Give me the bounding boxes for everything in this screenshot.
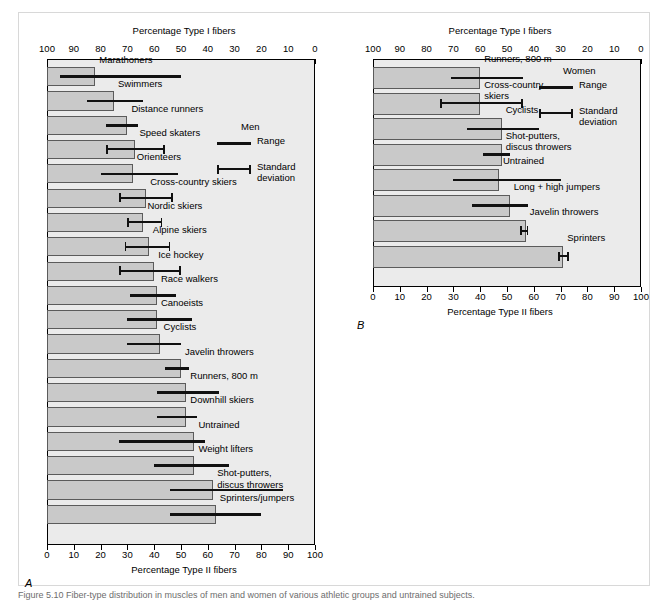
bar-label: Sprinters bbox=[567, 232, 605, 243]
bottom-axis-tick bbox=[453, 287, 454, 292]
bar-row[interactable]: Speed skaters bbox=[19, 140, 349, 159]
bar-label: Weight lifters bbox=[198, 443, 253, 454]
top-axis-tick-label: 10 bbox=[601, 43, 627, 54]
bar-row[interactable]: Runners, 800 m bbox=[19, 383, 349, 402]
bar-label: Sprinters/jumpers bbox=[220, 492, 294, 503]
bar-row[interactable]: Untrained bbox=[351, 169, 649, 191]
top-axis-tick-label: 0 bbox=[302, 43, 328, 54]
bar-label: Orienteers bbox=[137, 151, 181, 162]
bottom-axis-tick bbox=[534, 287, 535, 292]
bottom-axis-tick bbox=[373, 287, 374, 292]
panel-id-label: A bbox=[25, 577, 32, 589]
bar-label: Distance runners bbox=[131, 103, 203, 114]
bar-label-line2: discus throwers bbox=[217, 479, 283, 490]
bar-label: Cross-country bbox=[484, 79, 543, 90]
sd-marker bbox=[119, 197, 173, 199]
panel-b: Percentage Type I fibers1009080706050403… bbox=[351, 13, 649, 585]
bar-label: Cyclists bbox=[506, 104, 539, 115]
top-axis-tick-label: 0 bbox=[628, 43, 654, 54]
bar-label: Untrained bbox=[198, 419, 239, 430]
legend-sd-swatch bbox=[217, 168, 251, 170]
bar-row[interactable]: Untrained bbox=[19, 432, 349, 451]
top-axis-tick-label: 20 bbox=[574, 43, 600, 54]
bar-label: Marathoners bbox=[99, 54, 152, 65]
legend-sd-label-line2: deviation bbox=[579, 117, 617, 128]
top-axis-tick-label: 40 bbox=[195, 43, 221, 54]
top-axis-tick-label: 30 bbox=[222, 43, 248, 54]
bar-label: Long + high jumpers bbox=[514, 181, 600, 192]
bottom-axis-tick-row bbox=[19, 539, 349, 550]
bottom-axis-tick bbox=[480, 287, 481, 292]
bar-row[interactable]: Sprinters/jumpers bbox=[19, 505, 349, 524]
bar-label: Canoeists bbox=[161, 297, 203, 308]
legend-sd-label: Standard bbox=[257, 162, 296, 173]
bottom-axis-title: Percentage Type II fibers bbox=[19, 564, 349, 575]
bottom-axis-tick-label: 40 bbox=[467, 291, 493, 302]
bar-label: Ice hockey bbox=[158, 249, 203, 260]
bar-row[interactable]: Marathoners bbox=[19, 67, 349, 86]
bottom-axis-tick bbox=[235, 545, 236, 550]
top-axis-tick-label: 70 bbox=[440, 43, 466, 54]
legend-range-swatch bbox=[539, 86, 573, 89]
legend-range-label: Range bbox=[579, 80, 607, 91]
bottom-axis-tick-label: 90 bbox=[275, 549, 301, 560]
bottom-axis-tick-label: 10 bbox=[387, 291, 413, 302]
sd-marker bbox=[520, 230, 528, 232]
panel-a: Percentage Type I fibers1009080706050403… bbox=[19, 13, 349, 585]
range-marker bbox=[165, 367, 189, 370]
bar-row[interactable]: Sprinters bbox=[351, 246, 649, 268]
top-axis-tick-label: 60 bbox=[141, 43, 167, 54]
bottom-axis-tick bbox=[427, 287, 428, 292]
bar-row[interactable]: Cyclists bbox=[19, 334, 349, 353]
bottom-axis-tick bbox=[641, 287, 642, 292]
top-axis-tick-label: 90 bbox=[61, 43, 87, 54]
bar-row[interactable]: Shot-putters,discus throwers bbox=[19, 480, 349, 499]
top-axis-tick-label: 100 bbox=[360, 43, 386, 54]
legend-sd-label: Standard bbox=[579, 106, 618, 117]
legend-title: Men bbox=[241, 121, 259, 132]
bottom-axis-tick-label: 60 bbox=[195, 549, 221, 560]
top-axis-title: Percentage Type I fibers bbox=[351, 25, 649, 36]
figure-container: Percentage Type I fibers1009080706050403… bbox=[18, 12, 650, 586]
bar-label: Runners, 800 m bbox=[484, 53, 552, 64]
bar-label: Alpine skiers bbox=[153, 224, 207, 235]
bottom-axis-tick-label: 10 bbox=[61, 549, 87, 560]
bottom-axis-tick bbox=[288, 545, 289, 550]
top-axis-tick-label: 90 bbox=[387, 43, 413, 54]
bottom-axis-tick bbox=[507, 287, 508, 292]
bar-label-line2: discus throwers bbox=[506, 141, 572, 152]
top-axis-tick bbox=[315, 59, 316, 64]
bar-javelin-throwers[interactable] bbox=[47, 359, 181, 378]
bar-label: Shot-putters, bbox=[506, 130, 560, 141]
bottom-axis-tick bbox=[101, 545, 102, 550]
legend-sd-swatch bbox=[539, 112, 573, 114]
bar-label: Javelin throwers bbox=[530, 206, 599, 217]
bottom-axis-tick bbox=[614, 287, 615, 292]
bar-javelin-throwers[interactable] bbox=[373, 220, 526, 242]
bar-row[interactable]: Weight lifters bbox=[19, 456, 349, 475]
panel-id-label: B bbox=[357, 319, 364, 331]
bar-label: Speed skaters bbox=[139, 127, 200, 138]
bottom-axis-tick-label: 40 bbox=[141, 549, 167, 560]
sd-marker bbox=[119, 270, 181, 272]
range-marker bbox=[106, 124, 138, 127]
bar-row[interactable]: Long + high jumpers bbox=[351, 195, 649, 217]
bottom-axis-tick-label: 100 bbox=[628, 291, 654, 302]
bottom-axis-tick bbox=[561, 287, 562, 292]
bottom-axis-tick-label: 50 bbox=[494, 291, 520, 302]
bottom-axis-tick bbox=[315, 545, 316, 550]
bottom-axis-tick-label: 0 bbox=[34, 549, 60, 560]
bottom-axis-tick bbox=[74, 545, 75, 550]
bar-row[interactable]: Shot-putters,discus throwers bbox=[351, 144, 649, 166]
range-marker bbox=[119, 440, 205, 443]
bar-row[interactable]: Javelin throwers bbox=[19, 359, 349, 378]
sd-marker bbox=[125, 246, 171, 248]
legend-range-label: Range bbox=[257, 136, 285, 147]
bar-row[interactable]: Downhill skiers bbox=[19, 407, 349, 426]
bottom-axis-tick-label: 100 bbox=[302, 549, 328, 560]
bottom-axis-tick-label: 80 bbox=[574, 291, 600, 302]
bottom-axis-tick-label: 80 bbox=[248, 549, 274, 560]
bar-sprinters[interactable] bbox=[373, 246, 563, 268]
bar-label: Nordic skiers bbox=[147, 200, 202, 211]
bottom-axis-tick bbox=[154, 545, 155, 550]
